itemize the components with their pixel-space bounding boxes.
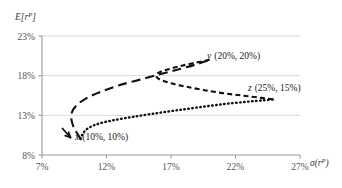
y-axis-title-close: ] <box>31 12 36 22</box>
asset-label-y-name: y <box>206 51 212 61</box>
asset-label-z-coords: (25%, 15%) <box>255 83 301 94</box>
y-axis-title-base: E[r <box>14 12 29 22</box>
asset-label-y: y(20%, 20%) <box>206 51 260 62</box>
asset-label-x-coords: (10%, 10%) <box>82 132 128 143</box>
asset-label-x: x(10%, 10%) <box>74 132 128 143</box>
x-tick-label-1: 12% <box>98 162 116 172</box>
y-tick-label-2: 13% <box>18 111 36 121</box>
asset-label-y-coords: (20%, 20%) <box>214 51 260 62</box>
asset-label-z-name: z <box>247 83 252 93</box>
asset-label-z: z(25%, 15%) <box>247 83 301 94</box>
chart-svg: 23% 18% 13% 8% 7% 12% 17% 22% 27% E[rP] … <box>0 0 342 188</box>
grid-lines <box>42 36 300 115</box>
data-curves <box>71 60 274 139</box>
asset-label-x-name: x <box>74 132 80 142</box>
x-axis-title-close: ) <box>325 158 329 169</box>
y-tick-label-0: 23% <box>18 32 36 42</box>
x-tick-label-0: 7% <box>36 162 49 172</box>
x-tick-label-4: 27% <box>291 162 309 172</box>
y-tick-labels: 23% 18% 13% 8% <box>18 32 36 161</box>
y-tick-label-3: 8% <box>22 151 35 161</box>
y-axis-title: E[rP] <box>14 11 36 22</box>
asset-x-pointer <box>63 129 71 138</box>
y-tick-label-1: 18% <box>18 71 36 81</box>
portfolio-frontier-chart: 23% 18% 13% 8% 7% 12% 17% 22% 27% E[rP] … <box>0 0 342 188</box>
asset-labels: x(10%, 10%) y(20%, 20%) z(25%, 15%) <box>74 51 301 143</box>
curve-y-z-frontier <box>156 60 274 100</box>
x-tick-labels: 7% 12% 17% 22% 27% <box>36 162 309 172</box>
x-axis-title: σ(rP) <box>310 157 329 169</box>
x-tick-label-2: 17% <box>162 162 180 172</box>
x-axis-title-base: σ(r <box>310 158 322 169</box>
x-tick-label-3: 22% <box>227 162 245 172</box>
curve-x-y-frontier <box>71 60 210 139</box>
